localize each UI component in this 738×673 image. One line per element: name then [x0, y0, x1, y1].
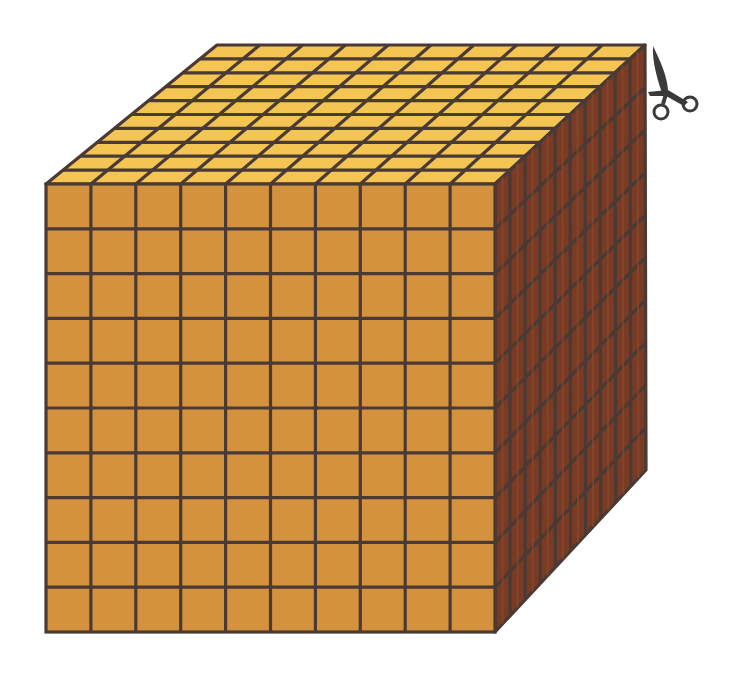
thousand-cube — [0, 0, 738, 673]
figure: Base-ten thousand cube (10 x 10 x 10) — [0, 0, 738, 673]
scissors-icon — [648, 46, 697, 119]
cube-front-face — [46, 184, 495, 632]
